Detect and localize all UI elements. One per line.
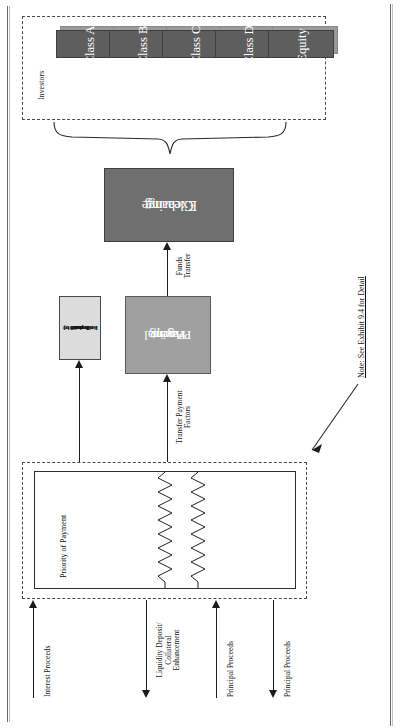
tpf-line2: Factors (183, 406, 192, 428)
diagram-page: Investors Class A Class B Class C Class … (0, 0, 404, 728)
fees-flow-arrow (75, 360, 85, 462)
note-leader-line (300, 380, 362, 460)
investors-group-label: Investors (38, 71, 46, 100)
tranche-label: Class C (189, 26, 204, 65)
interest-proceeds-arrow (29, 600, 39, 698)
page-rule-left (7, 6, 8, 722)
investors-to-exchange-brace (50, 120, 290, 160)
page-rule-right-2 (392, 4, 393, 726)
page-rule-right (390, 4, 391, 726)
liquidity-line3: Enhancement (172, 630, 181, 671)
transfer-payment-factors-label: Transfer Payment Factors (176, 379, 192, 455)
principal-proceeds-out-label: Principal Proceeds (284, 641, 292, 697)
tranche-label: Equity (295, 28, 310, 61)
tranche-face: Equity (268, 30, 334, 58)
principal-proceeds-out-arrow (269, 600, 279, 698)
clearing-exchange-box[interactable]: Clearing Exchange (104, 168, 234, 242)
spring-left (155, 472, 175, 588)
principal-proceeds-in-arrow (212, 600, 222, 698)
note-text: Note: See Exhibit 9.4 for Detail (358, 276, 366, 378)
principal-paying-agent-box[interactable]: Principal Paying Agent (125, 296, 211, 374)
fees-paid-by-trustee-box[interactable]: Fees paid by Trustee on behalf of Issuer (59, 296, 101, 360)
transfer-payment-factors-arrow (163, 374, 173, 462)
tranche-label: Class B (136, 26, 151, 65)
spring-right (188, 472, 208, 588)
priority-of-payment-label: Priority of Payment (60, 515, 68, 578)
tranche-card-equity[interactable]: Equity (268, 30, 334, 58)
liquidity-deposit-arrow (142, 600, 152, 698)
paying-agent-line3: Agent (152, 328, 184, 342)
page-rule-left-2 (9, 6, 10, 722)
funds-transfer-line2: Transfer (183, 253, 192, 278)
funds-transfer-label: Funds Transfer (176, 240, 192, 292)
liquidity-deposit-label: Liquidity Deposit/ Collateral Enhancemen… (156, 603, 182, 697)
funds-transfer-arrow (163, 242, 173, 298)
principal-proceeds-in-label: Principal Proceeds (227, 641, 235, 697)
tranche-label: Class A (83, 26, 98, 65)
clearing-exchange-line2: Exchange (141, 197, 196, 212)
fees-line4: Issuer (71, 324, 88, 331)
interest-proceeds-label: Interest Proceeds (44, 646, 52, 697)
tranche-label: Class D (242, 25, 257, 64)
